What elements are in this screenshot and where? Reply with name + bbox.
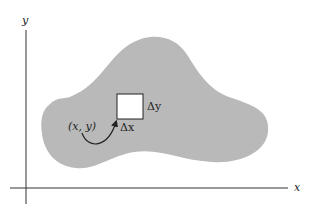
x-axis-label: x	[294, 181, 301, 194]
point-label: (x, y)	[68, 120, 96, 133]
area-element-diagram: y x Δy Δx (x, y)	[0, 0, 314, 211]
dy-label: Δy	[147, 100, 162, 113]
y-axis-label: y	[21, 14, 29, 27]
area-element-square	[117, 94, 143, 119]
dx-label: Δx	[120, 121, 135, 134]
